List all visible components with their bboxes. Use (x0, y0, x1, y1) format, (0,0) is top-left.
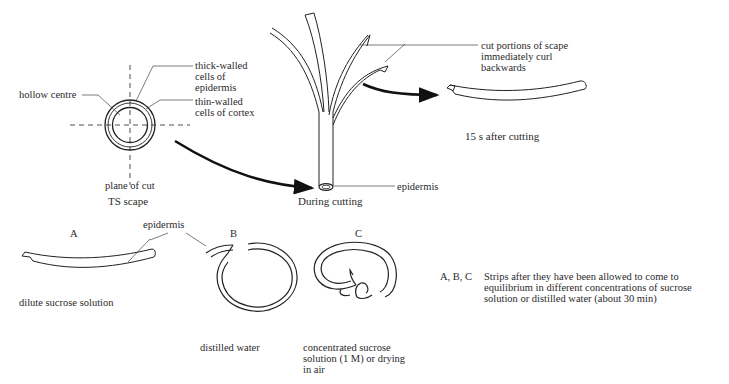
strip-c-letter: C (355, 228, 362, 239)
legend-text: Strips after they have been allowed to c… (484, 271, 692, 304)
strip-b-letter: B (230, 228, 237, 239)
legend-key: A, B, C (440, 271, 472, 282)
arrow-to-cutting (175, 141, 312, 188)
label-epidermis-strips: epidermis (143, 219, 184, 230)
label-thick-walled-epidermis: thick-walled cells of epidermis (195, 60, 247, 93)
caption-strip-c: concentrated sucrose solution (1 M) or d… (303, 342, 405, 375)
scape-during-cutting (270, 13, 478, 190)
label-thin-walled-cortex: thin-walled cells of cortex (195, 96, 254, 118)
diagram-drawing (0, 0, 729, 384)
strip-a-letter: A (70, 228, 78, 239)
caption-strip-b: distilled water (200, 342, 260, 353)
label-plane-of-cut: plane of cut (105, 180, 155, 191)
caption-ts-scape: TS scape (108, 196, 148, 207)
label-cut-portions: cut portions of scape immediately curl b… (481, 40, 568, 73)
arrow-to-after-cutting (363, 84, 437, 95)
scape-curling-diagram: hollow centre thick-walled cells of epid… (0, 0, 729, 384)
strip-c (314, 242, 396, 298)
strip-a (22, 239, 155, 267)
caption-during-cutting: During cutting (298, 196, 362, 207)
epidermis-leaders (150, 233, 206, 246)
caption-strip-a: dilute sucrose solution (19, 297, 114, 308)
label-hollow-centre: hollow centre (19, 89, 76, 100)
caption-15s-after-cutting: 15 s after cutting (465, 131, 539, 142)
strip-b (206, 243, 297, 311)
ts-scape-section (70, 65, 193, 185)
label-epidermis-scape: epidermis (397, 181, 438, 192)
strip-15s (447, 81, 586, 100)
